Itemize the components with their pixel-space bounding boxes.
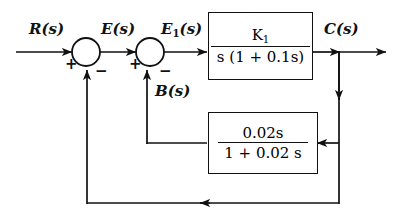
block-diagram-canvas: R(s) E(s) E1(s) C(s) B(s) + − + − K1 s (…: [0, 0, 393, 224]
forward-tf-numerator: K1: [246, 27, 276, 46]
e1-subscript: 1: [172, 27, 179, 39]
outer-junction-minus-sign: −: [95, 64, 108, 79]
feedback-transfer-function-block: 0.02s 1 + 0.02 s: [208, 112, 318, 174]
e1-base: E: [161, 20, 172, 38]
signal-label-error-e: E(s): [101, 22, 135, 37]
forward-transfer-function-block: K1 s (1 + 0.1s): [208, 12, 313, 80]
forward-tf-denominator: s (1 + 0.1s): [211, 47, 310, 65]
inner-junction-plus-sign: +: [129, 57, 142, 72]
forward-tf-numerator-subscript: 1: [263, 34, 269, 45]
feedback-tf-numerator: 0.02s: [236, 125, 289, 142]
signal-label-error-e1: E1(s): [161, 22, 202, 38]
feedback-tf-fraction: 0.02s 1 + 0.02 s: [218, 125, 308, 162]
signal-label-input-r: R(s): [29, 22, 64, 37]
outer-junction-plus-sign: +: [65, 57, 78, 72]
forward-tf-fraction: K1 s (1 + 0.1s): [211, 27, 310, 66]
feedback-tf-denominator: 1 + 0.02 s: [218, 143, 308, 161]
forward-tf-numerator-base: K: [252, 26, 263, 44]
e1-tail: (s): [180, 20, 203, 38]
inner-junction-minus-sign: −: [159, 64, 172, 79]
signal-label-output-c: C(s): [324, 22, 359, 37]
signal-label-feedback-b: B(s): [155, 84, 190, 99]
